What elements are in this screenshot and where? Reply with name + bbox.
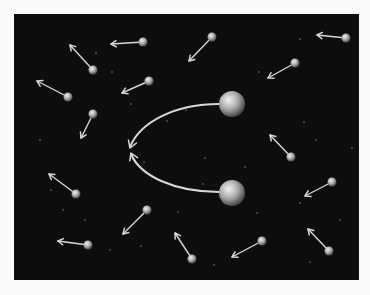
star-dot <box>166 120 167 121</box>
small-sphere <box>342 34 351 43</box>
star-dot <box>39 139 40 140</box>
star-dot <box>244 166 245 167</box>
small-sphere <box>84 241 93 250</box>
star-dot <box>299 202 300 203</box>
star-dot <box>109 249 110 250</box>
small-sphere <box>64 93 73 102</box>
star-dot <box>95 52 96 53</box>
star-dot <box>143 161 144 162</box>
small-sphere <box>325 247 334 256</box>
small-sphere <box>208 33 217 42</box>
star-dot <box>130 103 131 104</box>
star-dot <box>303 121 304 122</box>
small-sphere <box>143 206 152 215</box>
star-dot <box>351 147 352 148</box>
star-dot <box>111 71 112 72</box>
small-sphere <box>287 153 296 162</box>
large-sphere-top <box>219 91 245 117</box>
star-dot <box>140 245 141 246</box>
star-dot <box>258 71 259 72</box>
large-sphere-bottom <box>219 180 245 206</box>
small-sphere <box>89 66 98 75</box>
star-dot <box>202 183 203 184</box>
star-dot <box>309 261 310 262</box>
star-dot <box>185 109 186 110</box>
star-dot <box>62 209 63 210</box>
star-dot <box>84 219 85 220</box>
star-dot <box>204 157 205 158</box>
small-sphere <box>328 178 337 187</box>
small-sphere <box>291 59 300 68</box>
star-dot <box>177 211 178 212</box>
dark-space-panel <box>14 14 359 280</box>
star-dot <box>256 212 257 213</box>
small-sphere <box>188 255 197 264</box>
star-dot <box>339 219 340 220</box>
star-dot <box>315 139 316 140</box>
small-sphere <box>145 77 154 86</box>
star-dot <box>50 189 51 190</box>
star-dot <box>299 38 300 39</box>
small-sphere <box>72 190 81 199</box>
small-sphere <box>139 38 148 47</box>
star-dot <box>213 264 214 265</box>
particle-attraction-diagram <box>0 0 370 295</box>
small-sphere <box>89 110 98 119</box>
small-sphere <box>258 237 267 246</box>
